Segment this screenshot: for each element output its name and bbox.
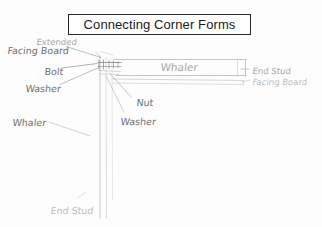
label-end-stud-bottom: End Stud: [50, 206, 94, 216]
leader-washer-center: [106, 76, 124, 112]
label-nut: Nut: [136, 98, 154, 108]
label-washer-left: Washer: [25, 84, 61, 94]
extended-facing-board-member: [96, 52, 113, 57]
leader-end-stud-bottom: [78, 192, 86, 198]
label-facing-board-left: Facing Board: [7, 46, 69, 56]
bolt-assembly-detail: [98, 60, 121, 75]
leader-nut: [110, 74, 131, 98]
label-washer-center: Washer: [120, 117, 156, 127]
leader-washer-left: [60, 68, 98, 85]
leader-bolt: [62, 64, 97, 69]
sketch-page: Connecting Corner Forms ExtendedFacing B…: [0, 0, 322, 227]
leader-whaler-left: [49, 122, 90, 136]
label-bolt: Bolt: [44, 67, 64, 77]
facing-board-right-member: [112, 79, 244, 85]
end-stud-post: [100, 56, 113, 218]
page-title: Connecting Corner Forms: [69, 15, 250, 34]
title-box: Connecting Corner Forms: [68, 14, 251, 35]
label-facing-board-right: Facing Board: [252, 78, 308, 87]
label-end-stud-right: End Stud: [252, 67, 291, 76]
label-whaler-top: Whaler: [160, 62, 198, 73]
label-whaler-left: Whaler: [12, 118, 47, 128]
